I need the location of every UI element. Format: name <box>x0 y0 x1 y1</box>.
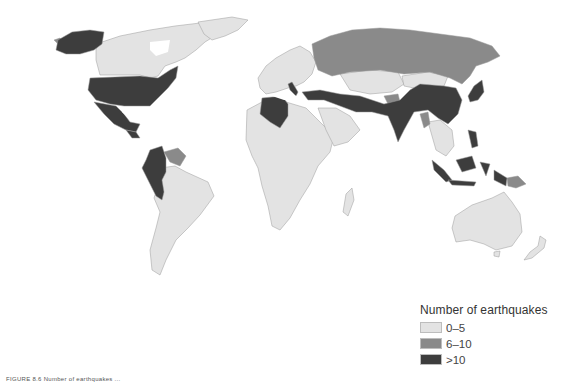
legend-item-mid: 6–10 <box>420 336 548 351</box>
legend-label-mid: 6–10 <box>446 338 472 350</box>
region-indonesia-java <box>448 180 476 186</box>
region-tasmania <box>494 251 500 257</box>
region-guatemala <box>126 130 140 138</box>
region-indonesia-sumatra <box>432 160 452 182</box>
legend-title: Number of earthquakes <box>420 303 548 317</box>
region-philippines <box>468 130 478 148</box>
legend-swatch-low <box>420 322 442 333</box>
region-europe <box>258 46 316 94</box>
legend-item-high: >10 <box>420 352 548 367</box>
region-indonesia-borneo <box>456 156 476 172</box>
region-new-zealand <box>524 236 546 260</box>
region-australia <box>452 192 522 250</box>
region-colombia-ecuador-peru <box>142 146 166 200</box>
region-central-asia <box>340 70 404 94</box>
region-japan <box>468 80 484 102</box>
region-madagascar <box>343 188 354 216</box>
legend-label-high: >10 <box>446 354 466 366</box>
region-southeast-asia <box>428 120 454 156</box>
region-indonesia-sulawesi <box>480 162 490 176</box>
legend-swatch-mid <box>420 338 442 349</box>
legend-item-low: 0–5 <box>420 320 548 335</box>
region-papua-new-guinea <box>507 176 526 188</box>
region-africa <box>246 102 334 230</box>
world-choropleth-map <box>0 0 580 300</box>
map-legend: Number of earthquakes 0–5 6–10 >10 <box>420 303 548 368</box>
region-indonesia-east <box>494 170 507 186</box>
figure-caption: FIGURE 8.6 Number of earthquakes ... <box>6 376 121 382</box>
region-myanmar <box>420 112 430 128</box>
legend-label-low: 0–5 <box>446 322 465 334</box>
region-venezuela <box>164 148 186 166</box>
legend-swatch-high <box>420 354 442 365</box>
